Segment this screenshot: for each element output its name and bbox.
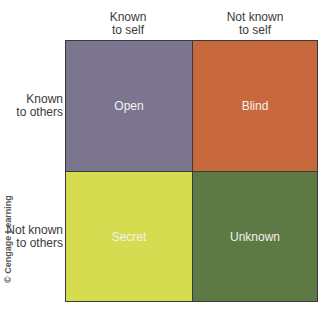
quadrant-label: Open — [114, 99, 143, 113]
column-header-not-known-to-self: Not known to self — [192, 11, 318, 37]
johari-window-grid: Open Blind Secret Unknown — [65, 40, 318, 302]
quadrant-unknown: Unknown — [193, 172, 317, 301]
quadrant-label: Unknown — [230, 230, 280, 244]
quadrant-label: Blind — [242, 99, 269, 113]
copyright-credit: © Cengage Learning — [3, 203, 13, 283]
column-header-line: to self — [192, 24, 318, 37]
column-header-line: to self — [65, 24, 191, 37]
quadrant-open: Open — [66, 41, 193, 172]
quadrant-secret: Secret — [66, 172, 193, 301]
quadrant-blind: Blind — [193, 41, 317, 172]
row-header-line: to others — [0, 106, 63, 119]
quadrant-label: Secret — [112, 230, 147, 244]
row-header-known-to-others: Known to others — [0, 93, 63, 119]
column-header-known-to-self: Known to self — [65, 11, 191, 37]
